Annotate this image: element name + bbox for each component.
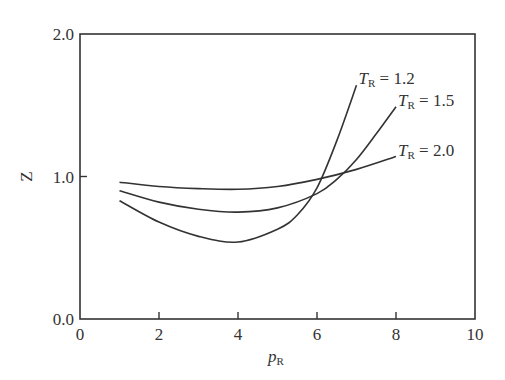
- x-tick-label: 0: [76, 325, 85, 344]
- y-tick-label: 0.0: [53, 310, 74, 329]
- y-tick-label: 1.0: [53, 168, 74, 187]
- axis-ticks: 02468100.01.02.0: [53, 25, 484, 344]
- y-tick-label: 2.0: [53, 25, 74, 44]
- curve-tr-15: [120, 107, 397, 212]
- y-axis-title: Z: [17, 171, 36, 181]
- curve-label: TR = 1.5: [398, 91, 454, 111]
- chart: 02468100.01.02.0 TR = 1.2TR = 1.5TR = 2.…: [0, 0, 505, 380]
- x-axis-title: pR: [267, 347, 285, 367]
- plot-frame: [80, 34, 475, 319]
- plot-border: [80, 34, 475, 319]
- labels: TR = 1.2TR = 1.5TR = 2.0pRZ: [17, 69, 454, 367]
- curves: [120, 85, 397, 242]
- curve-label: TR = 2.0: [398, 141, 454, 161]
- x-tick-label: 4: [234, 325, 243, 344]
- x-tick-label: 2: [155, 325, 164, 344]
- curve-label: TR = 1.2: [359, 69, 415, 89]
- x-tick-label: 6: [313, 325, 322, 344]
- curve-tr-12: [120, 85, 357, 242]
- x-tick-label: 10: [467, 325, 484, 344]
- x-tick-label: 8: [392, 325, 401, 344]
